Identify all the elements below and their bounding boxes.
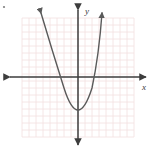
coordinate-plane-svg: y x bbox=[0, 0, 153, 149]
parabola-graph-figure: y x bbox=[0, 0, 153, 149]
x-axis-label: x bbox=[141, 82, 146, 92]
y-axis-label: y bbox=[84, 6, 89, 16]
corner-dot-mark bbox=[3, 6, 5, 8]
